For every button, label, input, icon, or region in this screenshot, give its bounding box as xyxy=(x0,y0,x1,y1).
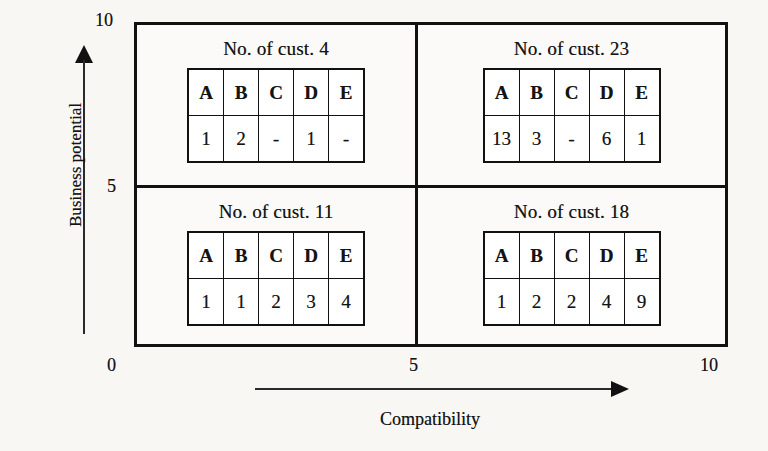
table-header-row: A B C D E xyxy=(188,232,364,279)
quadrant-top-right: No. of cust. 23 A B C D E 13 3 - 6 1 xyxy=(418,25,725,185)
table-header-cell: D xyxy=(589,232,624,279)
table-row: 1 1 2 3 4 xyxy=(188,279,364,326)
table-header-cell: B xyxy=(224,232,259,279)
x-axis-arrow-icon xyxy=(611,381,629,397)
table-value-cell: 6 xyxy=(589,116,624,163)
table-header-cell: E xyxy=(624,232,660,279)
quadrant-bottom-right-title: No. of cust. 18 xyxy=(514,201,629,223)
x-tick-5: 5 xyxy=(409,355,418,376)
y-axis-label: Business potential xyxy=(66,65,86,265)
quadrant-top-left-table: A B C D E 1 2 - 1 - xyxy=(187,68,365,163)
table-header-cell: C xyxy=(554,232,589,279)
table-value-cell: 3 xyxy=(294,279,329,326)
y-tick-0: 0 xyxy=(107,355,116,376)
table-header-row: A B C D E xyxy=(484,232,660,279)
y-tick-10: 10 xyxy=(95,10,113,31)
table-header-cell: A xyxy=(484,69,520,116)
x-axis-line xyxy=(255,388,613,390)
table-value-cell: 13 xyxy=(484,116,520,163)
quadrant-bottom-left-table: A B C D E 1 1 2 3 4 xyxy=(187,231,365,326)
table-header-cell: C xyxy=(554,69,589,116)
table-value-cell: 1 xyxy=(484,279,520,326)
table-row: 1 2 - 1 - xyxy=(188,116,364,163)
table-header-cell: C xyxy=(259,69,294,116)
table-value-cell: 2 xyxy=(554,279,589,326)
quadrant-top-right-title: No. of cust. 23 xyxy=(514,38,629,60)
table-header-cell: D xyxy=(589,69,624,116)
table-value-cell: - xyxy=(554,116,589,163)
quadrant-bottom-right-table: A B C D E 1 2 2 4 9 xyxy=(483,231,661,326)
table-value-cell: 1 xyxy=(624,116,660,163)
table-header-cell: D xyxy=(294,232,329,279)
table-value-cell: 4 xyxy=(329,279,365,326)
table-header-cell: B xyxy=(519,69,554,116)
table-header-cell: B xyxy=(224,69,259,116)
table-header-cell: A xyxy=(484,232,520,279)
quadrant-matrix-figure: No. of cust. 4 A B C D E 1 2 - 1 - No. o… xyxy=(0,0,768,451)
table-value-cell: 1 xyxy=(188,279,224,326)
quadrant-bottom-right: No. of cust. 18 A B C D E 1 2 2 4 9 xyxy=(418,188,725,344)
table-value-cell: - xyxy=(259,116,294,163)
quadrant-top-left-title: No. of cust. 4 xyxy=(223,38,329,60)
table-value-cell: 1 xyxy=(188,116,224,163)
quadrant-top-left: No. of cust. 4 A B C D E 1 2 - 1 - xyxy=(137,25,415,185)
quadrant-bottom-left: No. of cust. 11 A B C D E 1 1 2 3 4 xyxy=(137,188,415,344)
quadrant-top-right-table: A B C D E 13 3 - 6 1 xyxy=(483,68,661,163)
table-header-cell: B xyxy=(519,232,554,279)
table-value-cell: 1 xyxy=(224,279,259,326)
table-row: 13 3 - 6 1 xyxy=(484,116,660,163)
table-header-cell: E xyxy=(624,69,660,116)
table-header-cell: D xyxy=(294,69,329,116)
table-header-cell: E xyxy=(329,69,365,116)
x-tick-10: 10 xyxy=(700,355,718,376)
x-axis-label: Compatibility xyxy=(330,409,530,430)
quadrant-bottom-left-title: No. of cust. 11 xyxy=(219,201,334,223)
table-header-cell: A xyxy=(188,232,224,279)
table-value-cell: 4 xyxy=(589,279,624,326)
table-header-cell: E xyxy=(329,232,365,279)
table-header-cell: A xyxy=(188,69,224,116)
table-value-cell: 2 xyxy=(519,279,554,326)
y-tick-5: 5 xyxy=(107,176,116,197)
table-value-cell: 9 xyxy=(624,279,660,326)
table-value-cell: 2 xyxy=(259,279,294,326)
table-value-cell: - xyxy=(329,116,365,163)
table-value-cell: 3 xyxy=(519,116,554,163)
table-value-cell: 2 xyxy=(224,116,259,163)
table-row: 1 2 2 4 9 xyxy=(484,279,660,326)
table-header-row: A B C D E xyxy=(484,69,660,116)
table-value-cell: 1 xyxy=(294,116,329,163)
table-header-row: A B C D E xyxy=(188,69,364,116)
table-header-cell: C xyxy=(259,232,294,279)
